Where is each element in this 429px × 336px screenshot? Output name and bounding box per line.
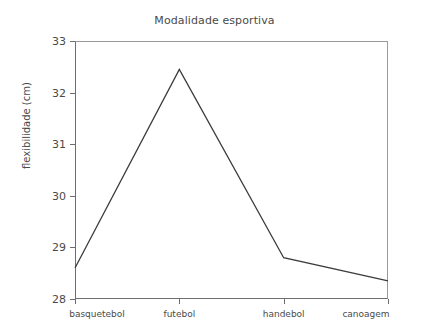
line-chart: Modalidade esportiva flexibilidade (cm) … bbox=[0, 0, 429, 336]
series-layer bbox=[0, 0, 429, 336]
series-line-flexibilidade bbox=[75, 69, 388, 281]
